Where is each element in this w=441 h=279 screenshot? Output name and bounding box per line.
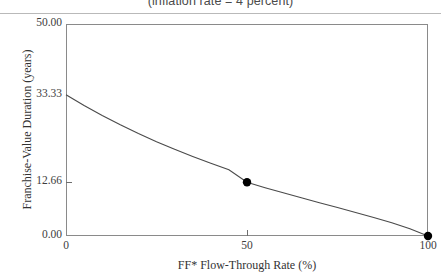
data-point-markers xyxy=(243,178,432,240)
figure-subtitle: (inflation rate = 4 percent) xyxy=(0,0,441,8)
y-axis-title: Franchise-Value Duration (years) xyxy=(20,15,35,245)
header-divider xyxy=(0,13,441,14)
y-axis-tick-mark xyxy=(66,182,72,183)
x-axis-title: FF* Flow-Through Rate (%) xyxy=(66,258,428,273)
x-axis-tick-mark xyxy=(247,230,248,236)
duration-curve xyxy=(66,95,428,236)
chart-canvas xyxy=(66,24,428,236)
x-axis-tick-label: 100 xyxy=(408,239,441,251)
data-point-marker xyxy=(243,178,251,186)
x-axis-tick-label: 0 xyxy=(46,239,86,251)
x-axis-tick-label: 50 xyxy=(227,239,267,251)
